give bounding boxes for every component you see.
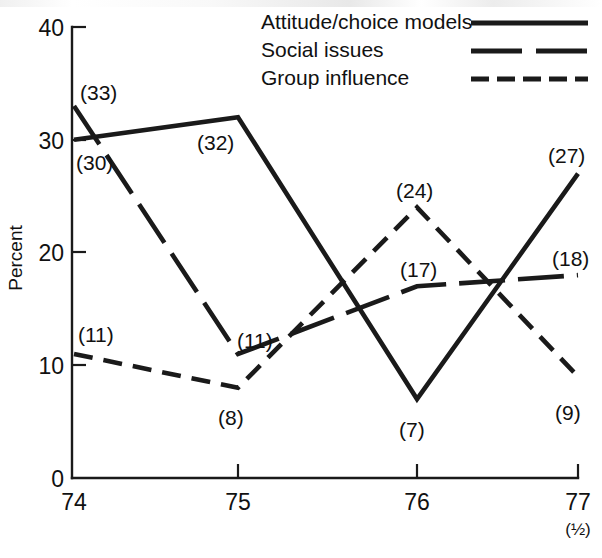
x-tick-label-77: 77 [565, 489, 591, 515]
series-line-attitude-choice-models [74, 117, 578, 399]
legend-label-social-issues: Social issues [261, 38, 384, 61]
y-tick-label-40: 40 [38, 15, 64, 41]
series-line-group-influence [74, 207, 578, 387]
scan-artifact [0, 0, 602, 7]
y-tick-label-20: 20 [38, 240, 64, 266]
legend-label-attitude-choice-models: Attitude/choice models [261, 10, 472, 33]
point-label-social-76: (17) [400, 258, 437, 281]
point-label-group-75: (8) [218, 406, 244, 429]
series-group [74, 106, 578, 399]
point-label-attitude-74: (30) [76, 151, 113, 174]
x-tick-label-74: 74 [61, 489, 87, 515]
series-line-social-issues [74, 106, 578, 354]
point-label-group-74: (11) [78, 323, 114, 346]
chart-figure: 40 30 20 10 0 74 75 76 77 (½) Percent [0, 0, 602, 558]
legend-label-group-influence: Group influence [261, 66, 409, 89]
point-label-attitude-77: (27) [548, 144, 585, 167]
point-label-group-76: (24) [396, 179, 433, 202]
point-label-attitude-75: (32) [197, 131, 234, 154]
point-label-social-77: (18) [552, 247, 589, 270]
y-tick-label-10: 10 [38, 353, 64, 379]
x-tick-sublabel-half: (½) [565, 520, 591, 539]
point-label-social-74: (33) [80, 81, 117, 104]
x-tick-label-75: 75 [225, 489, 251, 515]
line-chart-svg: 40 30 20 10 0 74 75 76 77 (½) Percent [0, 0, 602, 558]
legend: Attitude/choice models Social issues Gro… [261, 10, 588, 89]
point-label-social-75: (11) [237, 329, 273, 352]
y-axis-title: Percent [5, 225, 26, 291]
x-tick-label-76: 76 [404, 489, 430, 515]
y-tick-label-30: 30 [38, 128, 64, 154]
point-label-group-77: (9) [555, 401, 581, 424]
point-label-attitude-76: (7) [399, 418, 425, 441]
point-label-group: (33) (30) (11) (32) (11) (8) (24) (17) (… [76, 81, 589, 441]
